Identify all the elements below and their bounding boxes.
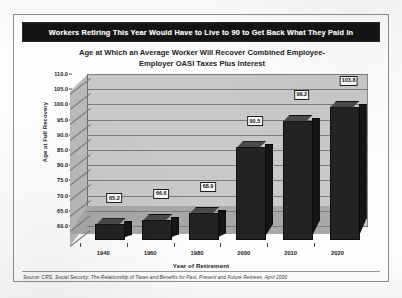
y-axis-tick-label: 105.0 [38,86,68,92]
bar-value-label: 65.2 [107,193,123,203]
bar-column[interactable] [142,206,172,240]
x-axis-title: Year of Retirement [22,262,380,269]
chart-title: Age at Which an Average Worker Will Reco… [40,48,364,69]
x-axis-tick-label: 1940 [97,250,110,256]
bar-front-face [142,220,172,240]
bar-column[interactable] [236,133,266,240]
y-axis-tick-labels: 110.0105.0100.095.090.085.080.075.070.06… [38,71,68,237]
bar-side-face [265,144,273,237]
plot-3d-box: 65.266.668.990.599.2103.8 [70,74,368,246]
x-axis-tick-label: 2020 [331,250,344,256]
x-axis-tick-labels: 194019601980200020102020 [70,249,368,261]
x-axis-tick-mark [127,243,128,247]
x-axis-tick-label: 2010 [284,250,297,256]
x-axis-tick-mark [267,243,268,247]
bar-side-face [218,210,226,237]
y-axis-tick-label: 60.0 [38,223,68,229]
y-axis-tick-label: 100.0 [38,101,68,107]
x-axis-tick-mark [80,243,81,247]
chart-title-line-1: Age at Which an Average Worker Will Reco… [40,48,364,59]
x-axis-tick-label: 1980 [190,250,203,256]
bar-side-face [359,104,367,237]
bar-side-face [312,118,320,237]
bar-front-face [283,121,313,240]
y-axis-tick-label: 85.0 [38,147,68,153]
bar-column[interactable] [95,210,125,240]
x-axis-tick-mark [314,243,315,247]
y-axis-tick-label: 95.0 [38,117,68,123]
bar-value-label: 90.5 [247,116,263,126]
y-axis-tick-label: 90.0 [38,132,68,138]
y-axis-tick-label: 70.0 [38,193,68,199]
x-axis-tick-label: 2000 [237,250,250,256]
bar-front-face [330,107,360,240]
source-note: Source: CRS, Social Security: The Relati… [23,274,379,281]
bar-value-label: 66.6 [153,189,169,199]
bar-value-label: 68.9 [200,182,216,192]
x-axis-tick-mark [220,243,221,247]
bar-front-face [95,224,125,240]
x-axis-tick-label: 1960 [144,250,157,256]
chart-title-line-2: Employer OASI Taxes Plus Interest [40,59,364,70]
bar-column[interactable] [330,93,360,240]
bar-side-face [124,221,132,237]
bar-column[interactable] [283,107,313,240]
bar-front-face [236,147,266,240]
y-axis-tick-label: 80.0 [38,162,68,168]
bar-value-label: 103.8 [339,76,358,86]
figure-frame: Workers Retiring This Year Would Have to… [13,14,389,282]
y-axis-tick-label: 75.0 [38,177,68,183]
plot-area: Age at Full Recovery 110.0105.0100.095.0… [22,71,380,261]
bar-column[interactable] [189,199,219,240]
banner-headline-text: Workers Retiring This Year Would Have to… [49,28,354,37]
y-axis-tick-label: 110.0 [38,71,68,77]
source-divider [22,271,380,272]
bar-series: 65.266.668.990.599.2103.8 [70,74,368,246]
x-axis-tick-mark [174,243,175,247]
bar-side-face [171,217,179,237]
y-axis-tick-label: 65.0 [38,208,68,214]
banner-headline: Workers Retiring This Year Would Have to… [22,22,380,42]
bar-value-label: 99.2 [294,90,310,100]
scanned-page: Workers Retiring This Year Would Have to… [0,0,402,298]
bar-front-face [189,213,219,240]
